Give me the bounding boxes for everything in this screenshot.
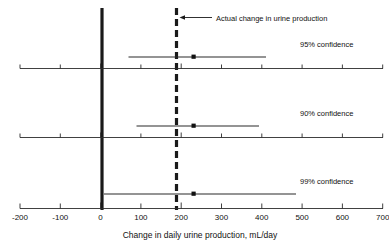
chart-svg: Actual change in urine production 95% co… <box>0 0 389 244</box>
panel-90-confidence: 90% confidence <box>20 109 383 138</box>
x-tick-label: 700 <box>376 213 389 222</box>
x-tick-label: 400 <box>255 213 269 222</box>
panel-axis-95 <box>20 64 383 69</box>
point-estimate-90 <box>192 124 196 128</box>
panel-axis-99 <box>20 203 383 209</box>
panel-axis-90 <box>20 133 383 138</box>
panel-99-confidence: 99% confidence <box>20 177 383 209</box>
point-estimate-95 <box>192 55 196 59</box>
panel-label-90: 90% confidence <box>300 109 353 118</box>
x-tick-label: 600 <box>336 213 350 222</box>
annotation-arrowhead-icon <box>180 15 186 20</box>
panel-95-confidence: 95% confidence <box>20 40 383 69</box>
panel-label-95: 95% confidence <box>300 40 353 49</box>
actual-change-annotation: Actual change in urine production <box>180 14 328 23</box>
x-tick-label: 0 <box>98 213 103 222</box>
x-tick-label: -100 <box>52 213 69 222</box>
x-axis-title: Change in daily urine production, mL/day <box>123 230 278 240</box>
x-tick-label: -200 <box>12 213 29 222</box>
x-tick-label: 100 <box>134 213 148 222</box>
confidence-interval-chart: Actual change in urine production 95% co… <box>0 0 389 244</box>
panel-label-99: 99% confidence <box>300 177 353 186</box>
x-tick-label: 200 <box>175 213 189 222</box>
x-tick-label: 500 <box>295 213 309 222</box>
x-axis-tick-labels: -200 -100 0 100 200 300 400 500 600 700 <box>12 213 389 222</box>
annotation-label: Actual change in urine production <box>216 14 327 23</box>
point-estimate-99 <box>192 192 196 196</box>
x-tick-label: 300 <box>215 213 229 222</box>
